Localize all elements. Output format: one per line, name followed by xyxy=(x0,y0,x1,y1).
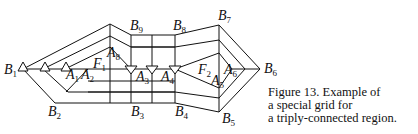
label-A5: A5 xyxy=(211,74,224,90)
figure-caption: Figure 13. Example of a special grid for… xyxy=(268,86,397,125)
marker-up-triangle xyxy=(18,62,28,71)
label-B5: B5 xyxy=(222,112,235,128)
label-A4: A4 xyxy=(161,70,174,86)
label-B2: B2 xyxy=(48,105,61,121)
label-B8: B8 xyxy=(173,19,186,35)
label-B6: B6 xyxy=(264,62,277,78)
label-B4: B4 xyxy=(175,105,188,121)
label-A8: A8 xyxy=(107,46,120,62)
label-A6: A6 xyxy=(224,63,237,79)
label-F1: F1 xyxy=(93,57,106,73)
label-F2: F2 xyxy=(198,63,211,79)
label-A1: A1 xyxy=(66,68,79,84)
label-B3: B3 xyxy=(131,105,144,121)
label-B1: B1 xyxy=(4,63,17,79)
caption-line: a triply-connected region. xyxy=(268,112,397,125)
label-A3: A3 xyxy=(136,70,149,86)
label-B9: B9 xyxy=(130,19,143,35)
label-B7: B7 xyxy=(218,9,231,25)
